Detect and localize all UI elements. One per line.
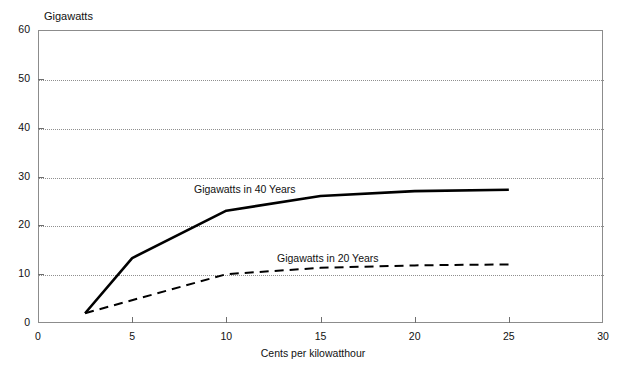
x-tick-label-5: 5: [112, 331, 152, 342]
x-tick-label-30: 30: [583, 331, 623, 342]
y-tick-label-10: 10: [0, 268, 30, 279]
y-tick-label-30: 30: [0, 171, 30, 182]
y-tick-label-50: 50: [0, 73, 30, 84]
y-tick-label-20: 20: [0, 219, 30, 230]
chart-container: Gigawatts 0102030405060 051015202530 Gig…: [0, 0, 626, 370]
series-annotation-40-years: Gigawatts in 40 Years: [194, 183, 296, 195]
series-line-gigawatts-20-years: [85, 264, 509, 313]
y-tick-label-40: 40: [0, 122, 30, 133]
x-tick-label-25: 25: [489, 331, 529, 342]
y-axis-title: Gigawatts: [44, 10, 93, 22]
x-tick-label-15: 15: [301, 331, 341, 342]
series-annotation-20-years: Gigawatts in 20 Years: [277, 252, 379, 264]
x-tick-label-10: 10: [206, 331, 246, 342]
x-tick-label-0: 0: [18, 331, 58, 342]
x-axis-title: Cents per kilowatthour: [0, 347, 626, 359]
y-tick-label-60: 60: [0, 24, 30, 35]
x-tick-label-20: 20: [395, 331, 435, 342]
series-layer: [38, 30, 603, 323]
y-tick-label-0: 0: [0, 317, 30, 328]
